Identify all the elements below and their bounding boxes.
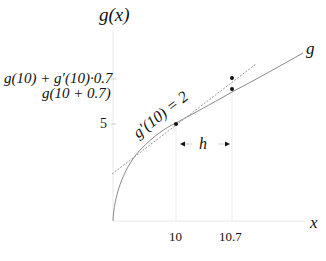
h-label: h: [199, 136, 207, 152]
diagram-canvas: [0, 0, 326, 261]
y-tick-label-actual: g(10 + 0.7): [42, 86, 111, 101]
h-arrow-left-head: [180, 142, 185, 147]
x-axis-label: x: [310, 214, 318, 231]
y-tick-label-estimate: g(10) + g′(10)·0.7: [4, 71, 112, 86]
x-tick-label-10: 10: [169, 230, 182, 243]
x-tick-label-10.7: 10.7: [219, 230, 242, 243]
h-arrow-right-head: [225, 142, 230, 147]
point-at-10: [174, 122, 178, 126]
point-tangent-estimate: [230, 76, 234, 80]
point-curve-at-10.7: [230, 87, 234, 91]
y-axis-label-text: g(x): [99, 4, 130, 25]
y-axis-label: g(x): [99, 5, 130, 24]
curve-label: g: [306, 40, 315, 57]
y-tick-label-5: 5: [100, 117, 107, 131]
